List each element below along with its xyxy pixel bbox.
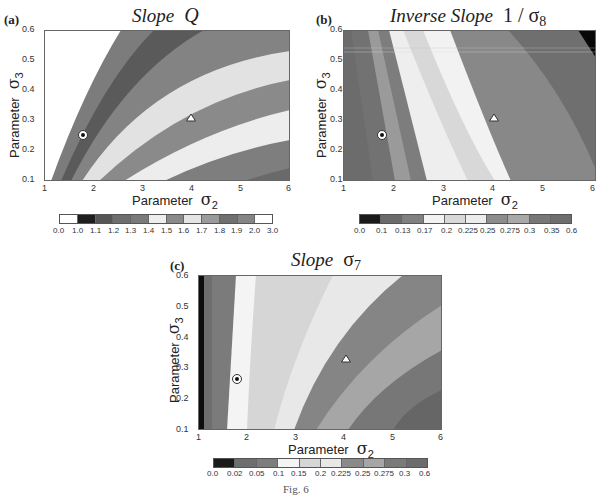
- panel-title-a: SlopeQ: [132, 4, 199, 27]
- y-axis-label-b: Parameterσ3: [311, 72, 332, 158]
- x-axis-label-a: Parameterσ2: [132, 190, 218, 211]
- panel-title-c: Slopeσ7: [291, 248, 361, 274]
- contour-plot-a: [44, 30, 290, 181]
- contour-plot-b: [343, 30, 596, 181]
- colorbar-b: [359, 214, 572, 224]
- contour-plot-c: [198, 275, 442, 430]
- y-axis-label-c: Parameterσ3: [164, 317, 185, 403]
- panel-letter-a: (a): [4, 12, 19, 28]
- marker-circle-b: [378, 131, 387, 140]
- x-axis-label-c: Parameterσ2: [288, 439, 374, 460]
- colorbar-a: [59, 214, 273, 224]
- figure-caption: Fig. 6: [283, 483, 309, 495]
- panel-title-b: Inverse Slope1 / σ8: [390, 4, 546, 30]
- marker-circle-a: [79, 131, 88, 140]
- marker-circle-c: [233, 375, 242, 384]
- colorbar-c: [213, 458, 428, 468]
- x-axis-label-b: Parameterσ2: [432, 190, 518, 211]
- y-axis-label-a: Parameterσ3: [4, 72, 25, 158]
